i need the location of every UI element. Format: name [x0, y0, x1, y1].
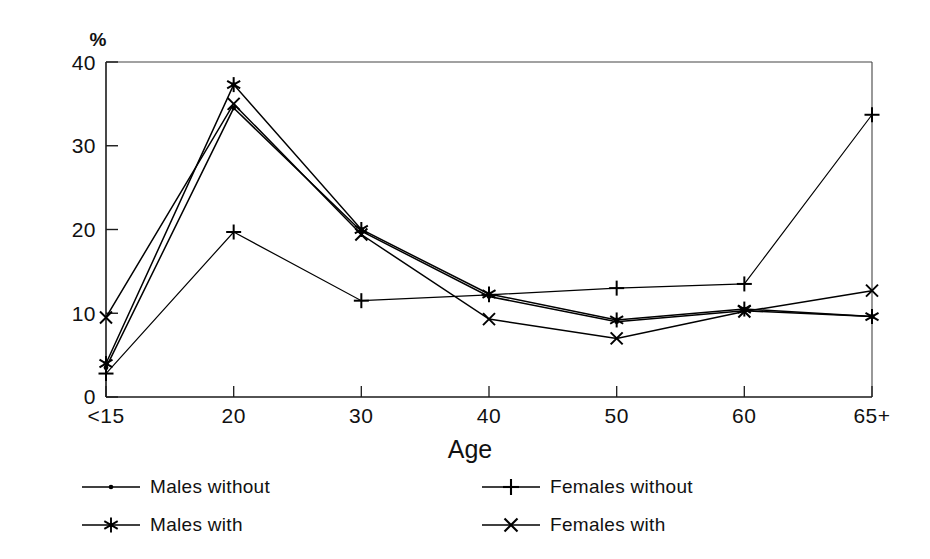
- legend-marker-star-icon: [78, 513, 144, 537]
- chart-figure: 0 10 20 30 40 % <15 20: [0, 0, 930, 559]
- line-chart-svg: 0 10 20 30 40 % <15 20: [0, 0, 930, 470]
- y-tick-label-20: 20: [72, 218, 96, 241]
- legend-label-males-with: Males with: [144, 514, 243, 536]
- legend-marker-dot-icon: [78, 475, 144, 499]
- x-tick-label-1: 20: [222, 404, 246, 427]
- x-tick-label-3: 40: [477, 404, 501, 427]
- y-axis-unit-label: %: [90, 29, 107, 50]
- legend-item-females-with: Females with: [478, 506, 693, 544]
- data-point-plus: [354, 293, 369, 308]
- series-line: [106, 115, 872, 374]
- legend-label-females-with: Females with: [544, 514, 666, 536]
- y-tick-label-40: 40: [72, 51, 96, 74]
- legend-column-males: Males without Males with: [78, 468, 270, 544]
- x-axis-ticks: [106, 386, 872, 397]
- legend-column-females: Females without Females with: [478, 468, 693, 544]
- legend-label-males-without: Males without: [144, 476, 270, 498]
- series-layer: [99, 77, 880, 381]
- series-females-without: [99, 107, 880, 381]
- legend-item-males-with: Males with: [78, 506, 270, 544]
- y-tick-label-10: 10: [72, 302, 96, 325]
- series-males-without: [104, 106, 875, 370]
- x-tick-label-5: 60: [732, 404, 756, 427]
- y-axis-tick-labels: 0 10 20 30 40: [72, 51, 96, 408]
- legend-marker-plus-icon: [478, 475, 544, 499]
- x-tick-label-2: 30: [349, 404, 373, 427]
- data-point-plus: [865, 107, 880, 122]
- x-tick-label-0: <15: [87, 404, 124, 427]
- series-males-with: [100, 77, 879, 371]
- legend-marker-cross-icon: [478, 513, 544, 537]
- x-tick-label-4: 50: [605, 404, 629, 427]
- legend-label-females-without: Females without: [544, 476, 693, 498]
- data-point-plus: [609, 281, 624, 296]
- data-point-plus: [737, 276, 752, 291]
- x-axis-title: Age: [448, 435, 492, 463]
- y-tick-label-30: 30: [72, 134, 96, 157]
- series-line: [106, 104, 872, 339]
- chart-legend: Males without Males with: [0, 468, 930, 559]
- series-females-with: [100, 98, 878, 345]
- plot-area: 0 10 20 30 40 % <15 20: [0, 0, 930, 470]
- x-tick-label-6: 65+: [853, 404, 890, 427]
- legend-item-females-without: Females without: [478, 468, 693, 506]
- series-line: [106, 108, 872, 368]
- legend-item-males-without: Males without: [78, 468, 270, 506]
- data-point-plus: [482, 287, 497, 302]
- x-axis-tick-labels: <15 20 30 40 50 60 65+: [87, 404, 890, 427]
